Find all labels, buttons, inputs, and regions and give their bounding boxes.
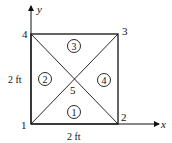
finite-element-diagram: y x 1 2 3 4 5 1 2 3 4 2 ft 2 ft xyxy=(0,0,172,143)
svg-text:2: 2 xyxy=(43,74,48,85)
width-dimension-label: 2 ft xyxy=(67,131,81,142)
element-marker-2: 2 xyxy=(39,73,52,86)
node-label-4: 4 xyxy=(22,28,28,40)
node-label-5: 5 xyxy=(70,84,76,96)
x-axis-label: x xyxy=(160,118,166,130)
element-marker-3: 3 xyxy=(68,40,81,53)
node-label-3: 3 xyxy=(122,25,128,37)
svg-text:4: 4 xyxy=(102,75,107,86)
node-label-2: 2 xyxy=(121,111,127,123)
svg-text:1: 1 xyxy=(72,107,77,118)
y-axis-label: y xyxy=(36,3,42,15)
height-dimension-label: 2 ft xyxy=(8,74,22,85)
element-marker-4: 4 xyxy=(98,74,111,87)
node-label-1: 1 xyxy=(21,119,27,131)
svg-text:3: 3 xyxy=(72,41,77,52)
element-marker-1: 1 xyxy=(68,106,81,119)
